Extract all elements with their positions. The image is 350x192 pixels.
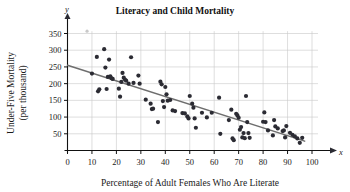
scatter-data-point bbox=[90, 72, 94, 76]
y-tick-label: 250 bbox=[49, 62, 62, 72]
x-tick-label: 50 bbox=[186, 157, 195, 167]
scatter-data-point bbox=[263, 120, 267, 124]
scatter-data-point bbox=[239, 125, 243, 129]
scatter-data-point bbox=[105, 87, 109, 91]
y-tick-label: 150 bbox=[49, 95, 62, 105]
scatter-data-point bbox=[227, 118, 231, 122]
scatter-data-point bbox=[266, 128, 270, 132]
y-axis-variable-label: y bbox=[64, 4, 69, 14]
scatter-data-point bbox=[244, 94, 248, 98]
scatter-data-point bbox=[205, 115, 209, 119]
scatter-data-point bbox=[246, 131, 250, 135]
scatter-data-point bbox=[284, 124, 288, 128]
scatter-data-point bbox=[229, 108, 233, 112]
scatter-data-point bbox=[95, 55, 99, 59]
scatter-data-point bbox=[295, 136, 299, 140]
x-tick-label: 20 bbox=[112, 157, 121, 167]
x-tick-label: 100 bbox=[306, 157, 319, 167]
scatter-data-point bbox=[164, 92, 168, 96]
scatter-data-point bbox=[232, 138, 236, 142]
scatter-data-point bbox=[103, 65, 107, 69]
scatter-data-point bbox=[210, 111, 214, 115]
scatter-data-point bbox=[138, 82, 142, 86]
scatter-data-point bbox=[168, 98, 172, 102]
scatter-data-point bbox=[271, 133, 275, 137]
y-tick-labels: 50100150200250300350 bbox=[49, 29, 62, 139]
scatter-data-point bbox=[282, 128, 286, 132]
scatter-data-point bbox=[241, 131, 245, 135]
axes bbox=[65, 13, 338, 154]
x-tick-labels: 0102030405060708090100 bbox=[65, 157, 318, 167]
y-tick-label: 200 bbox=[49, 79, 62, 89]
scatter-data-point bbox=[245, 120, 249, 124]
chart-figure: 0102030405060708090100 50100150200250300… bbox=[0, 0, 350, 192]
scatter-data-point bbox=[151, 107, 155, 111]
scatter-data-point bbox=[117, 87, 121, 91]
scatter-data-point bbox=[149, 102, 153, 106]
scatter-data-point bbox=[102, 47, 106, 51]
y-tick-label: 300 bbox=[49, 45, 62, 55]
literacy-child-mortality-scatter: 0102030405060708090100 50100150200250300… bbox=[0, 0, 350, 192]
x-axis-arrow-icon bbox=[330, 148, 337, 154]
scatter-data-point bbox=[186, 116, 190, 120]
x-tick-label: 0 bbox=[65, 157, 69, 167]
scatter-data-point bbox=[191, 106, 195, 110]
scatter-data-point bbox=[136, 74, 140, 78]
scatter-data-point bbox=[107, 57, 111, 61]
scatter-data-point bbox=[188, 94, 192, 98]
scatter-data-point bbox=[243, 136, 247, 140]
scatter-data-point bbox=[127, 82, 131, 86]
scatter-data-point bbox=[161, 99, 165, 103]
scatter-data-point bbox=[173, 109, 177, 113]
scatter-data-point bbox=[119, 80, 123, 84]
scatter-data-point bbox=[272, 118, 276, 122]
scatter-data-point bbox=[97, 87, 101, 91]
scatter-data-point bbox=[160, 82, 164, 86]
y-tick-label: 350 bbox=[49, 29, 62, 39]
scatter-data-point bbox=[190, 102, 194, 106]
scatter-data-point bbox=[276, 126, 280, 130]
scatter-data-point bbox=[162, 105, 166, 109]
scatter-data-point bbox=[194, 126, 198, 130]
x-tick-label: 10 bbox=[88, 157, 97, 167]
y-axis-title-line1: Under-Five Mortality bbox=[6, 52, 16, 134]
page-title: Literacy and Child Mortality bbox=[116, 6, 235, 16]
scatter-data-point bbox=[298, 141, 302, 145]
x-tick-label: 70 bbox=[234, 157, 243, 167]
scatter-data-point bbox=[300, 136, 304, 140]
y-axis-title-line2: (per thousand) bbox=[18, 65, 29, 120]
y-tick-label: 50 bbox=[53, 129, 62, 139]
x-axis-variable-label: x bbox=[338, 147, 343, 157]
scatter-data-point bbox=[144, 98, 148, 102]
x-axis-title: Percentage of Adult Females Who Are Lite… bbox=[101, 178, 279, 188]
scatter-data-point bbox=[193, 116, 197, 120]
scatter-data-point bbox=[283, 135, 287, 139]
y-tick-label: 100 bbox=[49, 112, 62, 122]
scatter-data-point bbox=[218, 132, 222, 136]
x-tick-label: 30 bbox=[137, 157, 146, 167]
scatter-data-point bbox=[120, 71, 124, 75]
scatter-data-point bbox=[200, 111, 204, 115]
scatter-data-point bbox=[156, 120, 160, 124]
x-tick-label: 60 bbox=[210, 157, 219, 167]
scatter-data-point bbox=[118, 95, 122, 99]
scatter-data-point bbox=[237, 116, 241, 120]
scatter-data-point bbox=[217, 96, 221, 100]
x-tick-label: 80 bbox=[259, 157, 268, 167]
scatter-data-point bbox=[262, 110, 266, 114]
scatter-data-point bbox=[131, 81, 135, 85]
scatter-data-point bbox=[129, 55, 133, 59]
stray-mark-icon bbox=[85, 30, 88, 33]
x-tick-label: 40 bbox=[161, 157, 170, 167]
scatter-data-point bbox=[111, 77, 115, 81]
scatter-data-point bbox=[163, 85, 167, 89]
scatter-data-point bbox=[248, 136, 252, 140]
x-tick-label: 90 bbox=[283, 157, 292, 167]
